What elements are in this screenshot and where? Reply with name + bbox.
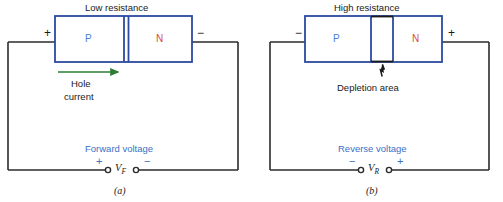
diode-body-a xyxy=(55,16,192,62)
panel-a-title: Low resistance xyxy=(85,3,148,13)
panel-a-source-right-sign: − xyxy=(144,156,150,167)
panel-b-right-terminal-sign: + xyxy=(448,27,455,39)
panel-a-source-left-sign: + xyxy=(96,156,102,167)
panel-a-caption: (a) xyxy=(114,186,126,196)
forward-voltage-symbol-subscript: F xyxy=(121,167,126,176)
panel-b-source-right-sign: + xyxy=(397,156,403,167)
figure-canvas: Low resistance + − P N Hole current Forw… xyxy=(0,0,503,202)
diode-body-b xyxy=(305,16,442,62)
panel-a-left-terminal-sign: + xyxy=(44,27,51,39)
panel-b-left-terminal-sign: − xyxy=(295,27,302,39)
forward-voltage-symbol: VF xyxy=(115,163,126,176)
depletion-area-label: Depletion area xyxy=(337,83,399,93)
forward-voltage-label: Forward voltage xyxy=(85,144,153,154)
hole-current-label-line2: current xyxy=(64,92,94,102)
panel-a-n-region-label: N xyxy=(156,34,163,44)
panel-b-n-region-label: N xyxy=(412,34,419,44)
panel-a-p-region-label: P xyxy=(85,34,92,44)
depletion-pointer-arrow xyxy=(380,64,385,76)
panel-b-p-region-label: P xyxy=(333,34,340,44)
panel-a-right-terminal-sign: − xyxy=(197,27,204,39)
hole-current-label-line1: Hole xyxy=(71,79,91,89)
reverse-voltage-label: Reverse voltage xyxy=(338,144,407,154)
reverse-voltage-symbol: VR xyxy=(368,163,379,176)
panel-b-caption: (b) xyxy=(366,186,378,196)
panel-b-title: High resistance xyxy=(334,3,399,13)
panel-b-source-left-sign: − xyxy=(349,156,355,167)
reverse-voltage-symbol-subscript: R xyxy=(374,167,379,176)
